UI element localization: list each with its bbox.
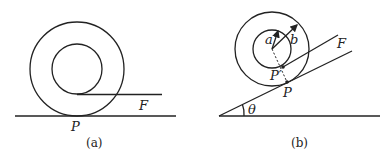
diagram-canvas: F P (a) a b F P′ P θ (b) bbox=[0, 0, 388, 159]
inner-contact-label: P′ bbox=[269, 68, 282, 83]
point-p-prime bbox=[281, 65, 285, 69]
figure-a: F P (a) bbox=[15, 22, 176, 150]
angle-arc bbox=[243, 105, 245, 116]
inner-circle bbox=[52, 44, 102, 94]
inner-radius-label: a bbox=[265, 32, 273, 47]
caption-a: (a) bbox=[86, 136, 103, 150]
outer-radius-label: b bbox=[290, 32, 298, 47]
force-label: F bbox=[138, 98, 149, 113]
caption-b: (b) bbox=[291, 136, 308, 150]
figure-b: a b F P′ P θ (b) bbox=[219, 12, 380, 150]
outer-circle bbox=[30, 22, 124, 116]
force-label: F bbox=[336, 36, 347, 51]
contact-label: P bbox=[70, 119, 80, 134]
angle-label: θ bbox=[248, 102, 256, 117]
point-p bbox=[285, 80, 289, 84]
contact-label: P bbox=[282, 85, 292, 100]
